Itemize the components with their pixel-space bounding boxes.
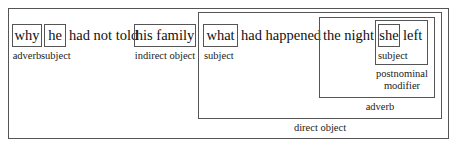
label-his-family-indirect-object: indirect object [128, 50, 202, 62]
word-she: she [379, 27, 398, 44]
label-why-adverb: adverb [10, 50, 44, 62]
label-modifier: modifier [370, 80, 434, 92]
word-left: left [403, 26, 422, 44]
word-box-what: what [203, 24, 238, 47]
label-she-subject: subject [378, 50, 414, 62]
word-his-family: his family [136, 27, 194, 44]
word-box-why: why [12, 24, 42, 47]
word-why: why [15, 27, 40, 44]
word-box-his-family: his family [134, 24, 196, 47]
word-what: what [206, 27, 234, 44]
word-had-happened: had happened [241, 26, 321, 44]
label-what-subject: subject [204, 50, 240, 62]
word-box-she: she [378, 24, 400, 47]
word-the-night: the night [323, 26, 374, 44]
word-box-he: he [44, 24, 66, 47]
label-postnominal: postnominal [370, 68, 434, 80]
label-direct-object: direct object [280, 122, 360, 134]
word-had-not-told: had not told [69, 26, 138, 44]
label-adverb-clause: adverb [340, 101, 420, 113]
word-he: he [48, 27, 62, 44]
label-he-subject: subject [41, 50, 77, 62]
